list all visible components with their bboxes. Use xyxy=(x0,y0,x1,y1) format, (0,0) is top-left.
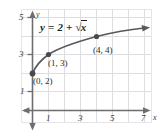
x-tick-label-3: 3 xyxy=(78,114,83,123)
graph-figure: y = 2 + √x (0, 2) (1, 3) (4, 4) 5 3 1 1 … xyxy=(0,0,163,137)
equation-label: y = 2 + √x xyxy=(40,22,87,33)
x-tick-label-1: 1 xyxy=(46,114,51,123)
x-axis xyxy=(22,107,151,113)
y-tick-label-3: 3 xyxy=(19,50,24,59)
equation-lhs: y = 2 + xyxy=(40,21,76,33)
point-label-0-2: (0, 2) xyxy=(33,77,53,86)
radicand: x xyxy=(81,20,88,33)
data-point-1-3 xyxy=(46,52,51,57)
y-tick-label-1: 1 xyxy=(20,87,25,96)
x-axis-name: x xyxy=(153,114,157,122)
x-tick-label-7: 7 xyxy=(141,114,146,123)
y-axis-name: y xyxy=(36,11,40,19)
data-point-4-4 xyxy=(94,34,99,39)
y-tick-label-5: 5 xyxy=(19,13,24,22)
point-label-4-4: (4, 4) xyxy=(93,46,113,55)
point-label-1-3: (1, 3) xyxy=(48,59,68,68)
x-tick-label-5: 5 xyxy=(110,114,115,123)
